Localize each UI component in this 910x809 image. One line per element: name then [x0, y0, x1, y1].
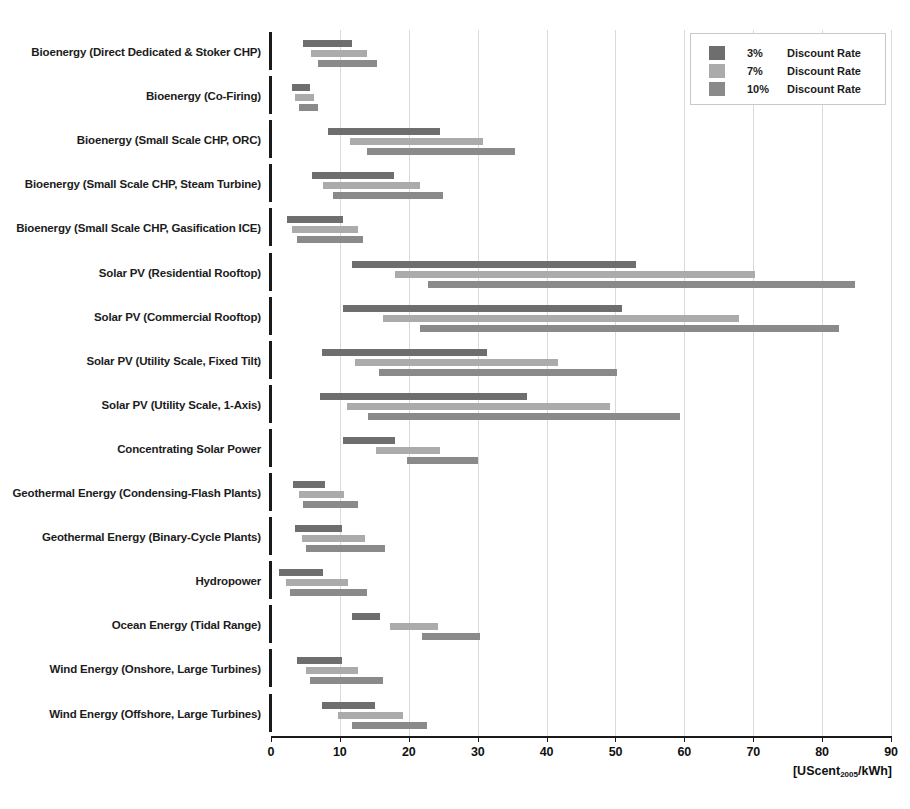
legend-percent: 3% [747, 47, 787, 59]
range-bar[interactable] [303, 501, 358, 508]
range-bar[interactable] [367, 148, 514, 155]
range-bar[interactable] [383, 315, 739, 322]
category-axis-tick [269, 253, 272, 291]
x-tick-label: 20 [402, 745, 416, 759]
x-tick [340, 736, 341, 742]
range-bar[interactable] [318, 60, 377, 67]
range-bar[interactable] [395, 271, 755, 278]
range-bar[interactable] [297, 236, 362, 243]
range-bar[interactable] [422, 633, 480, 640]
range-bar[interactable] [333, 192, 443, 199]
x-axis-line [271, 736, 891, 738]
range-bar[interactable] [428, 281, 855, 288]
range-bar[interactable] [279, 569, 322, 576]
chart-row: Solar PV (Commercial Rooftop) [0, 295, 910, 339]
range-bar[interactable] [297, 657, 342, 664]
chart-row: Concentrating Solar Power [0, 427, 910, 471]
range-bar[interactable] [407, 457, 478, 464]
range-bar[interactable] [322, 349, 487, 356]
range-bar[interactable] [368, 413, 680, 420]
range-bar[interactable] [338, 712, 403, 719]
x-tick [271, 736, 272, 742]
chart-row: Hydropower [0, 559, 910, 603]
range-bar[interactable] [320, 393, 527, 400]
range-bar[interactable] [306, 545, 385, 552]
chart-row: Bioenergy (Small Scale CHP, Steam Turbin… [0, 162, 910, 206]
chart-row: Bioenergy (Small Scale CHP, ORC) [0, 118, 910, 162]
category-axis-tick [269, 32, 272, 70]
category-axis-tick [269, 208, 272, 246]
range-bar[interactable] [302, 535, 365, 542]
x-tick [547, 736, 548, 742]
range-bar[interactable] [323, 182, 419, 189]
range-bar[interactable] [286, 579, 348, 586]
unit-suffix: /kWh] [858, 764, 892, 778]
range-bar[interactable] [303, 40, 353, 47]
chart-row: Geothermal Energy (Binary-Cycle Plants) [0, 515, 910, 559]
range-bar[interactable] [292, 84, 310, 91]
x-tick-label: 10 [333, 745, 347, 759]
category-axis-tick [269, 649, 272, 687]
range-bar[interactable] [311, 50, 367, 57]
range-bar[interactable] [293, 481, 325, 488]
legend-percent: 10% [747, 83, 787, 95]
range-bar[interactable] [352, 261, 636, 268]
chart-row: Wind Energy (Offshore, Large Turbines) [0, 692, 910, 736]
x-tick-label: 90 [884, 745, 898, 759]
chart-row: Solar PV (Utility Scale, 1-Axis) [0, 383, 910, 427]
range-bar[interactable] [312, 172, 394, 179]
range-bar[interactable] [352, 722, 427, 729]
chart-row: Bioenergy (Small Scale CHP, Gasification… [0, 206, 910, 250]
legend-item[interactable]: 7% Discount Rate [709, 62, 885, 80]
category-axis-tick [269, 385, 272, 423]
category-label: Solar PV (Commercial Rooftop) [94, 311, 271, 323]
category-axis-tick [269, 76, 272, 114]
legend-label: Discount Rate [787, 83, 861, 95]
legend-item[interactable]: 3% Discount Rate [709, 44, 885, 62]
range-bar[interactable] [343, 305, 622, 312]
category-label: Bioenergy (Small Scale CHP, ORC) [77, 134, 271, 146]
range-bar[interactable] [287, 216, 343, 223]
chart-row: Wind Energy (Onshore, Large Turbines) [0, 647, 910, 691]
range-bar[interactable] [299, 104, 318, 111]
category-label: Bioenergy (Direct Dedicated & Stoker CHP… [31, 46, 271, 58]
x-tick [753, 736, 754, 742]
range-bar[interactable] [379, 369, 617, 376]
range-bar[interactable] [390, 623, 438, 630]
range-bar[interactable] [420, 325, 839, 332]
category-label: Solar PV (Residential Rooftop) [99, 267, 271, 279]
chart-row: Solar PV (Utility Scale, Fixed Tilt) [0, 339, 910, 383]
range-bar[interactable] [310, 677, 383, 684]
category-axis-tick [269, 473, 272, 511]
category-label: Hydropower [195, 575, 271, 587]
range-bar[interactable] [347, 403, 610, 410]
range-bar[interactable] [355, 359, 558, 366]
legend-item[interactable]: 10% Discount Rate [709, 80, 885, 98]
unit-subscript: 2005 [840, 770, 858, 779]
range-bar[interactable] [292, 226, 357, 233]
x-tick [891, 736, 892, 742]
x-tick [822, 736, 823, 742]
range-bar[interactable] [295, 525, 342, 532]
chart-row: Ocean Energy (Tidal Range) [0, 603, 910, 647]
category-label: Wind Energy (Offshore, Large Turbines) [49, 708, 271, 720]
range-bar[interactable] [322, 702, 375, 709]
range-bar[interactable] [352, 613, 380, 620]
x-tick-label: 50 [609, 745, 623, 759]
range-bar[interactable] [290, 589, 367, 596]
range-bar[interactable] [350, 138, 483, 145]
range-bar[interactable] [306, 667, 358, 674]
range-bar[interactable] [299, 491, 344, 498]
category-label: Geothermal Energy (Binary-Cycle Plants) [42, 531, 271, 543]
range-bar[interactable] [343, 437, 395, 444]
legend-label: Discount Rate [787, 65, 861, 77]
legend-swatch-3pct [709, 46, 725, 60]
range-bar[interactable] [376, 447, 440, 454]
x-tick-label: 80 [815, 745, 829, 759]
range-bar[interactable] [295, 94, 314, 101]
category-axis-tick [269, 164, 272, 202]
range-bar[interactable] [328, 128, 440, 135]
category-axis-tick [269, 605, 272, 643]
category-label: Bioenergy (Small Scale CHP, Steam Turbin… [25, 178, 271, 190]
renewable-lcoe-range-chart: Bioenergy (Direct Dedicated & Stoker CHP… [0, 0, 910, 809]
